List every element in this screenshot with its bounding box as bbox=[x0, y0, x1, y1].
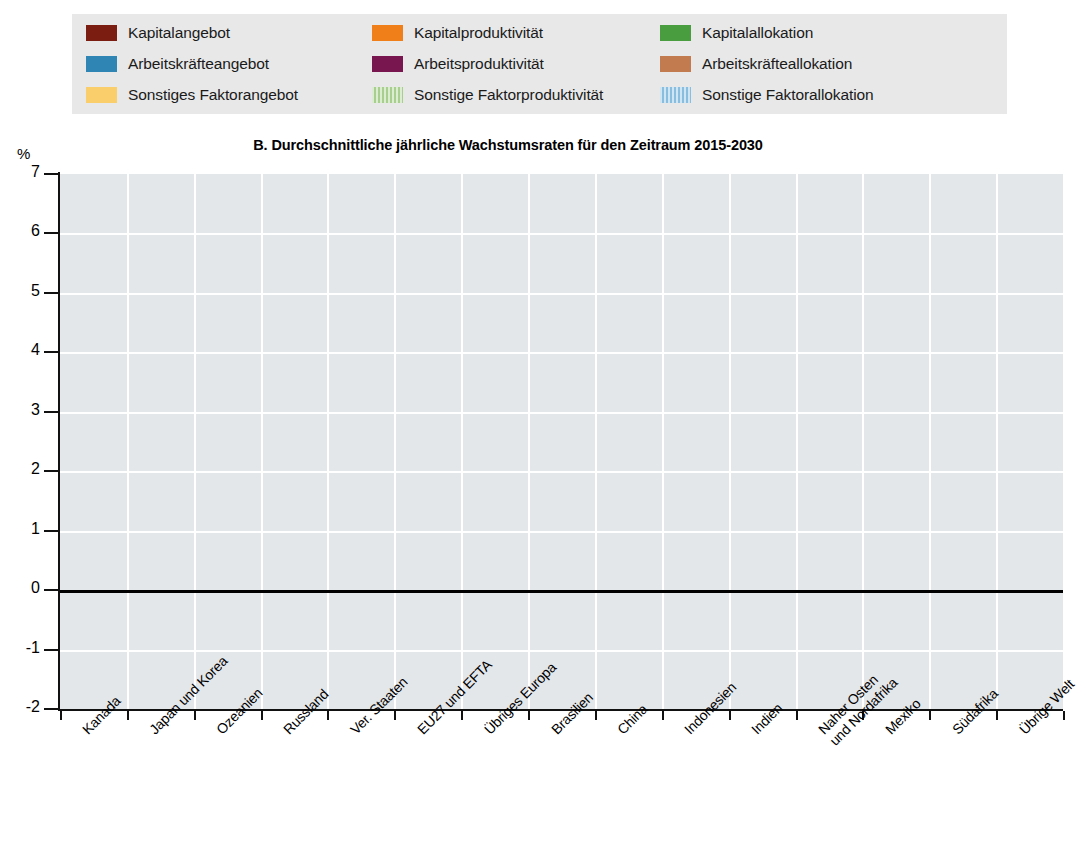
x-tick bbox=[261, 711, 263, 720]
y-tick bbox=[44, 232, 58, 234]
legend-swatch-arbeitskraefteangebot bbox=[86, 56, 117, 72]
y-axis-label: 3 bbox=[6, 402, 40, 418]
legend-label-kapitalangebot: Kapitalangebot bbox=[128, 24, 230, 42]
x-tick bbox=[1063, 711, 1065, 720]
legend-swatch-arbeitsproduktivitaet bbox=[372, 56, 403, 72]
y-axis-unit: % bbox=[17, 145, 30, 162]
legend-swatch-sonstige_faktorproduktivitaet bbox=[372, 87, 403, 103]
x-tick bbox=[394, 711, 396, 720]
y-axis-label: 2 bbox=[6, 461, 40, 477]
legend-item-kapitalallokation: Kapitalallokation bbox=[646, 24, 946, 42]
gridline-h bbox=[60, 471, 1063, 473]
x-tick bbox=[60, 711, 62, 720]
y-tick bbox=[44, 470, 58, 472]
gridline-h bbox=[60, 650, 1063, 652]
gridline-v bbox=[862, 174, 864, 709]
legend-item-arbeitskraefteallokation: Arbeitskräfteallokation bbox=[646, 55, 946, 73]
chart-legend: KapitalangebotKapitalproduktivitätKapita… bbox=[72, 14, 1007, 114]
y-tick bbox=[44, 530, 58, 532]
y-tick bbox=[44, 351, 58, 353]
y-tick bbox=[44, 708, 58, 710]
legend-swatch-kapitalproduktivitaet bbox=[372, 25, 403, 41]
legend-item-kapitalproduktivitaet: Kapitalproduktivität bbox=[358, 24, 646, 42]
legend-label-sonstiges_faktorangebot: Sonstiges Faktorangebot bbox=[128, 86, 298, 104]
y-tick bbox=[44, 589, 58, 591]
legend-item-kapitalangebot: Kapitalangebot bbox=[72, 24, 358, 42]
gridline-v bbox=[528, 174, 530, 709]
gridline-h bbox=[60, 293, 1063, 295]
chart-title: B. Durchschnittliche jährliche Wachstums… bbox=[118, 137, 898, 153]
legend-item-sonstiges_faktorangebot: Sonstiges Faktorangebot bbox=[72, 86, 358, 104]
plot-canvas bbox=[60, 174, 1063, 709]
y-axis-label: 4 bbox=[6, 342, 40, 358]
x-tick bbox=[662, 711, 664, 720]
legend-swatch-sonstige_faktorallokation bbox=[660, 87, 691, 103]
legend-item-sonstige_faktorallokation: Sonstige Faktorallokation bbox=[646, 86, 946, 104]
y-axis-label: -1 bbox=[6, 640, 40, 656]
gridline-v bbox=[194, 174, 196, 709]
y-axis-label: 7 bbox=[6, 164, 40, 180]
gridline-v bbox=[327, 174, 329, 709]
gridline-v bbox=[595, 174, 597, 709]
gridline-v bbox=[729, 174, 731, 709]
legend-label-sonstige_faktorallokation: Sonstige Faktorallokation bbox=[702, 86, 874, 104]
legend-item-arbeitskraefteangebot: Arbeitskräfteangebot bbox=[72, 55, 358, 73]
gridline-v bbox=[929, 174, 931, 709]
gridline-v bbox=[461, 174, 463, 709]
y-axis-label: 6 bbox=[6, 223, 40, 239]
legend-label-arbeitskraefteangebot: Arbeitskräfteangebot bbox=[128, 55, 269, 73]
zero-line bbox=[60, 590, 1063, 593]
x-tick bbox=[461, 711, 463, 720]
y-axis-label: 0 bbox=[6, 580, 40, 596]
x-tick bbox=[595, 711, 597, 720]
y-axis-label: -2 bbox=[6, 699, 40, 715]
gridline-h bbox=[60, 233, 1063, 235]
gridline-v bbox=[996, 174, 998, 709]
gridline-v bbox=[394, 174, 396, 709]
y-tick bbox=[44, 649, 58, 651]
x-tick bbox=[327, 711, 329, 720]
legend-label-arbeitskraefteallokation: Arbeitskräfteallokation bbox=[702, 55, 852, 73]
y-tick bbox=[44, 411, 58, 413]
y-axis-label: 5 bbox=[6, 283, 40, 299]
legend-label-kapitalproduktivitaet: Kapitalproduktivität bbox=[414, 24, 543, 42]
x-tick bbox=[729, 711, 731, 720]
legend-swatch-arbeitskraefteallokation bbox=[660, 56, 691, 72]
gridline-h bbox=[60, 412, 1063, 414]
plot-area bbox=[60, 174, 1063, 709]
legend-swatch-sonstiges_faktorangebot bbox=[86, 87, 117, 103]
y-tick bbox=[44, 292, 58, 294]
legend-label-kapitalallokation: Kapitalallokation bbox=[702, 24, 813, 42]
y-axis-label: 1 bbox=[6, 521, 40, 537]
x-tick bbox=[194, 711, 196, 720]
gridline-v bbox=[261, 174, 263, 709]
gridline-h bbox=[60, 531, 1063, 533]
legend-item-sonstige_faktorproduktivitaet: Sonstige Faktorproduktivität bbox=[358, 86, 646, 104]
x-tick bbox=[929, 711, 931, 720]
legend-item-arbeitsproduktivitaet: Arbeitsproduktivität bbox=[358, 55, 646, 73]
x-tick bbox=[127, 711, 129, 720]
legend-label-sonstige_faktorproduktivitaet: Sonstige Faktorproduktivität bbox=[414, 86, 603, 104]
legend-swatch-kapitalangebot bbox=[86, 25, 117, 41]
y-tick bbox=[44, 173, 58, 175]
x-tick bbox=[528, 711, 530, 720]
gridline-h bbox=[60, 352, 1063, 354]
x-tick bbox=[796, 711, 798, 720]
gridline-v bbox=[662, 174, 664, 709]
gridline-v bbox=[796, 174, 798, 709]
legend-swatch-kapitalallokation bbox=[660, 25, 691, 41]
x-tick bbox=[996, 711, 998, 720]
legend-label-arbeitsproduktivitaet: Arbeitsproduktivität bbox=[414, 55, 544, 73]
gridline-v bbox=[127, 174, 129, 709]
